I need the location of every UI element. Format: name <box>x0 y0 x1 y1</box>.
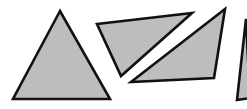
triangle-1 <box>13 11 110 99</box>
triangle-4-partial <box>237 19 247 100</box>
triangles-diagram <box>0 0 247 109</box>
